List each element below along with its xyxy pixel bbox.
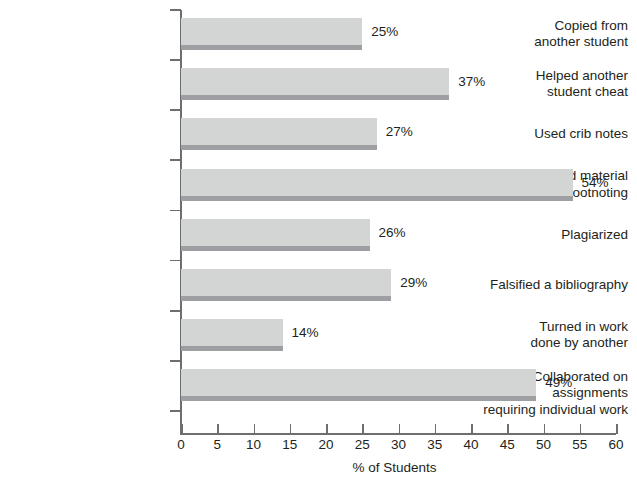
x-axis-tick-label: 40: [463, 437, 478, 453]
x-axis-tick: [435, 424, 437, 434]
bar-value-label: 25%: [371, 24, 398, 40]
bar-shadow: [181, 246, 370, 251]
category-label: Turned in workdone by another: [467, 319, 637, 352]
bar-shadow: [181, 45, 362, 50]
x-axis-tick-label: 30: [391, 437, 406, 453]
bar-fill: [181, 219, 370, 246]
x-axis-tick-label: 50: [536, 437, 551, 453]
category-label-line: requiring individual work: [467, 402, 628, 419]
bar-fill: [181, 369, 536, 396]
x-axis-tick-label: 25: [355, 437, 370, 453]
bar-fill: [181, 18, 362, 45]
bar-fill: [181, 118, 377, 145]
y-axis-tick: [170, 360, 181, 362]
y-axis-tick: [170, 210, 181, 212]
category-label: Used crib notes: [467, 126, 637, 143]
x-axis-tick: [254, 424, 256, 434]
bar-value-label: 14%: [292, 325, 319, 341]
y-axis-tick: [170, 59, 181, 61]
bar-value-label: 54%: [582, 175, 609, 191]
category-label-line: Turned in work: [467, 319, 628, 336]
x-axis-tick: [544, 424, 546, 434]
x-axis-title-text: % of Students: [352, 460, 436, 475]
y-axis-tick: [170, 260, 181, 262]
category-label-line: Used crib notes: [467, 126, 628, 143]
category-label: Plagiarized: [467, 227, 637, 244]
category-label-line: Helped another: [467, 68, 628, 85]
y-axis-tick: [170, 109, 181, 111]
category-label-line: done by another: [467, 335, 628, 352]
category-label: Copied fromanother student: [467, 18, 637, 51]
x-axis-tick: [290, 424, 292, 434]
x-axis-tick-label: 15: [282, 437, 297, 453]
x-axis-tick-label: 0: [177, 437, 185, 453]
bar-shadow: [181, 346, 283, 351]
bar-shadow: [181, 396, 536, 401]
category-label-line: student cheat: [467, 84, 628, 101]
y-axis-tick: [170, 410, 181, 412]
x-axis-tick-label: 5: [213, 437, 221, 453]
bar-shadow: [181, 296, 391, 301]
x-axis-tick: [580, 424, 582, 434]
bar-value-label: 27%: [386, 124, 413, 140]
x-axis-tick: [507, 424, 509, 434]
y-axis-tick: [170, 9, 181, 11]
bar-value-label: 26%: [379, 225, 406, 241]
x-axis-tick: [399, 424, 401, 434]
x-axis-tick: [217, 424, 219, 434]
x-axis-tick: [181, 424, 183, 434]
bar-value-label: 49%: [545, 375, 572, 391]
x-axis-tick-label: 10: [246, 437, 261, 453]
bar-fill: [181, 319, 283, 346]
bar-shadow: [181, 196, 573, 201]
y-axis-tick: [170, 310, 181, 312]
x-axis-tick: [616, 424, 618, 434]
x-axis-tick: [362, 424, 364, 434]
bar-value-label: 29%: [400, 275, 427, 291]
x-axis-tick-label: 20: [318, 437, 333, 453]
category-label-line: Plagiarized: [467, 227, 628, 244]
x-axis-tick-label: 60: [608, 437, 623, 453]
x-axis-tick-label: 45: [500, 437, 515, 453]
bar-shadow: [181, 95, 449, 100]
category-label-line: Falsified a bibliography: [467, 277, 628, 294]
bar-fill: [181, 269, 391, 296]
x-axis-tick: [326, 424, 328, 434]
category-label-line: another student: [467, 34, 628, 51]
bar-fill: [181, 68, 449, 95]
bar-value-label: 37%: [458, 74, 485, 90]
bar-shadow: [181, 145, 377, 150]
category-label-line: Copied from: [467, 18, 628, 35]
y-axis-tick: [170, 159, 181, 161]
bar-chart: Copied fromanother studentHelped another…: [0, 0, 637, 490]
category-label: Falsified a bibliography: [467, 277, 637, 294]
x-axis-tick: [471, 424, 473, 434]
x-axis-title: % of Students: [0, 460, 637, 475]
category-label: Helped anotherstudent cheat: [467, 68, 637, 101]
x-axis-tick-label: 35: [427, 437, 442, 453]
x-axis-tick-label: 55: [572, 437, 587, 453]
bar-fill: [181, 169, 573, 196]
